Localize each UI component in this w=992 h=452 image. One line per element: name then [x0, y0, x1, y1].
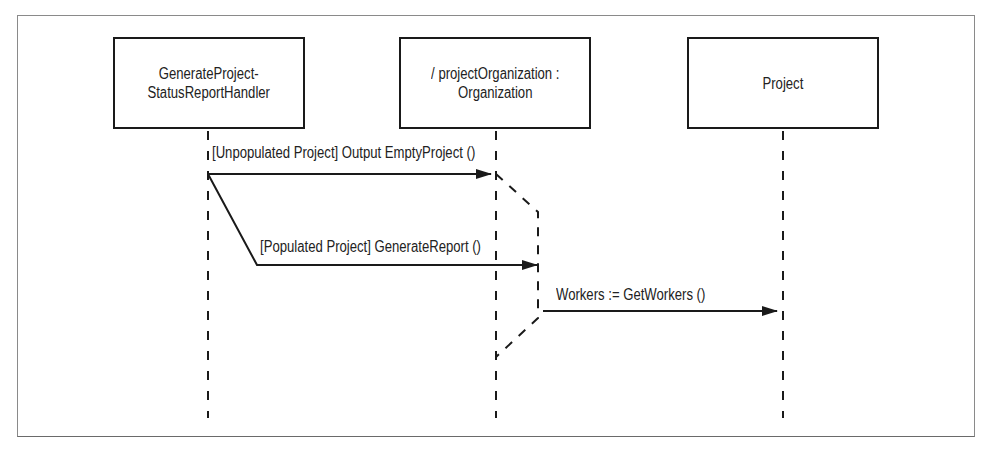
message-label-generatereport: [Populated Project] GenerateReport ()	[260, 238, 481, 256]
message-label-getworkers: Workers := GetWorkers ()	[556, 286, 705, 304]
lifeline-label-project: Project	[763, 74, 804, 93]
lifeline-head-project: Project	[687, 37, 879, 129]
lifeline-head-handler: GenerateProject- StatusReportHandler	[113, 37, 305, 129]
lifeline-label-handler: GenerateProject- StatusReportHandler	[148, 64, 271, 102]
lifeline-label-organization: / projectOrganization : Organization	[431, 64, 559, 102]
message-label-output-emptyproject: [Unpopulated Project] Output EmptyProjec…	[212, 144, 475, 162]
lifeline-head-organization: / projectOrganization : Organization	[399, 37, 591, 129]
